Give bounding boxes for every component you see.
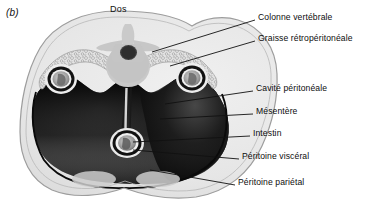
label-mesentere: Mésentère xyxy=(256,107,298,116)
anatomical-figure: (b) Dos Colonne vertébrale Graisse rétro… xyxy=(0,0,370,208)
cross-section-illustration xyxy=(0,0,370,208)
body-wall xyxy=(0,0,370,208)
label-cavite-peritoneale: Cavité péritonéale xyxy=(256,84,327,93)
intestine xyxy=(110,128,144,158)
kidney-left xyxy=(45,64,77,94)
label-peritoine-visceral: Péritoine viscéral xyxy=(242,152,309,161)
label-peritoine-parietal: Péritoine pariétal xyxy=(238,178,304,187)
kidney-right xyxy=(176,63,208,93)
orientation-label-dos: Dos xyxy=(110,4,127,14)
panel-label: (b) xyxy=(6,7,19,18)
label-colonne-vertebrale: Colonne vertébrale xyxy=(258,13,332,22)
label-intestin: Intestin xyxy=(253,129,282,138)
label-graisse-retroperitoneale: Graisse rétropéritonéale xyxy=(258,34,353,43)
